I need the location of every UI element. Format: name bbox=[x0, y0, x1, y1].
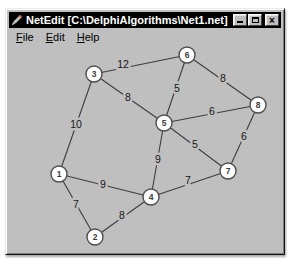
graph-node-6[interactable]: 6 bbox=[179, 47, 195, 63]
close-icon: × bbox=[269, 16, 275, 25]
menu-help[interactable]: Help bbox=[71, 30, 106, 44]
minimize-icon bbox=[237, 21, 243, 23]
menu-file-accel: F bbox=[16, 31, 23, 43]
node-label-4: 4 bbox=[149, 192, 154, 202]
window-controls: × bbox=[233, 14, 279, 26]
graph-node-7[interactable]: 7 bbox=[220, 163, 236, 179]
menu-bar: File Edit Help bbox=[6, 28, 284, 45]
menu-file[interactable]: File bbox=[10, 30, 40, 44]
node-label-1: 1 bbox=[57, 169, 62, 179]
node-label-6: 6 bbox=[185, 50, 190, 60]
node-label-5: 5 bbox=[162, 118, 167, 128]
graph-canvas-area[interactable] bbox=[10, 55, 280, 250]
graph-node-2[interactable]: 2 bbox=[87, 229, 103, 245]
graph-node-4[interactable]: 4 bbox=[143, 189, 159, 205]
netedit-window: NetEdit [C:\DelphiAlgorithms\Net1.net] ×… bbox=[5, 8, 285, 255]
graph-node-1[interactable]: 1 bbox=[51, 166, 67, 182]
node-label-2: 2 bbox=[93, 232, 98, 242]
menu-help-label: elp bbox=[85, 31, 100, 43]
menu-help-accel: H bbox=[77, 31, 85, 43]
graph-node-8[interactable]: 8 bbox=[250, 97, 266, 113]
maximize-icon bbox=[252, 17, 259, 23]
node-label-8: 8 bbox=[256, 100, 261, 110]
graph-node-5[interactable]: 5 bbox=[156, 115, 172, 131]
node-label-3: 3 bbox=[92, 69, 97, 79]
graph-node-3[interactable]: 3 bbox=[86, 66, 102, 82]
title-bar[interactable]: NetEdit [C:\DelphiAlgorithms\Net1.net] × bbox=[9, 12, 281, 28]
desktop-background: NetEdit [C:\DelphiAlgorithms\Net1.net] ×… bbox=[0, 0, 292, 268]
node-label-7: 7 bbox=[226, 166, 231, 176]
maximize-button[interactable] bbox=[248, 14, 262, 26]
menu-file-label: ile bbox=[23, 31, 34, 43]
window-title: NetEdit [C:\DelphiAlgorithms\Net1.net] bbox=[26, 12, 230, 28]
app-icon[interactable] bbox=[11, 14, 23, 26]
menu-edit-label: dit bbox=[53, 31, 65, 43]
menu-edit[interactable]: Edit bbox=[40, 30, 71, 44]
close-button[interactable]: × bbox=[265, 14, 279, 26]
menu-edit-accel: E bbox=[46, 31, 53, 43]
minimize-button[interactable] bbox=[233, 14, 247, 26]
